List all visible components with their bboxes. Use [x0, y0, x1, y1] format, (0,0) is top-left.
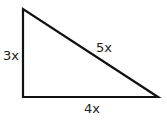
bottom-side-label: 4x [84, 101, 100, 116]
triangle-diagram: 3x 5x 4x [0, 0, 167, 124]
right-triangle [23, 9, 158, 97]
left-side-label: 3x [3, 48, 19, 63]
hypotenuse-label: 5x [96, 40, 112, 55]
